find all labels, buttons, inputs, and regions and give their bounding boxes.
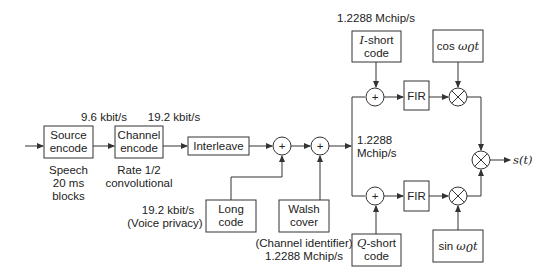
channel-encode-label-2: encode (120, 142, 158, 154)
adder-symbol: + (279, 140, 286, 152)
source-note-1: Speech (49, 164, 88, 176)
q-short-code-block: Q-short code (352, 234, 401, 266)
combiner (472, 151, 490, 169)
source-encode-label-1: Source (50, 129, 86, 141)
source-note-2: 20 ms (53, 177, 85, 189)
adder-walsh: + (311, 137, 329, 155)
top-rate-label: 1.2288 Mchip/s (337, 12, 415, 24)
arrow-long-code-to-adder (231, 156, 282, 200)
mid-rate-2: Mchip/s (357, 147, 397, 159)
channel-note-2: convolutional (105, 177, 172, 189)
cos-carrier-block: cos ω0t (433, 30, 483, 62)
walsh-note-2: 1.2288 Mchip/s (265, 250, 343, 262)
source-encode-block: Source encode (44, 126, 93, 158)
long-code-block: Long code (206, 200, 256, 232)
multiplier-lower (449, 187, 467, 205)
mid-rate-1: 1.2288 (357, 134, 392, 146)
multiplier-upper (449, 88, 467, 106)
output-label: s(t) (513, 153, 533, 167)
adder-q-channel: + (366, 187, 384, 205)
adder-long-code: + (273, 137, 291, 155)
fir-lower-label: FIR (407, 190, 426, 202)
walsh-label-2: cover (290, 216, 318, 228)
cdma-transmitter-diagram: Source encode Speech 20 ms blocks 9.6 kb… (0, 0, 548, 276)
interleave-label: Interleave (193, 140, 244, 152)
i-short-label-1: I-short (359, 33, 395, 47)
rate-channel-label: 19.2 kbit/s (148, 111, 201, 123)
fir-upper-label: FIR (407, 90, 426, 102)
channel-encode-label-1: Channel (118, 129, 161, 141)
sin-carrier-block: sin ω0t (433, 230, 483, 262)
source-encode-label-2: encode (50, 142, 88, 154)
arrow-mult-lower-to-sum (467, 170, 481, 196)
q-short-label-2: code (364, 250, 389, 262)
long-code-rate-2: (Voice privacy) (127, 217, 203, 229)
fir-upper-block: FIR (404, 81, 429, 110)
adder-symbol: + (317, 140, 324, 152)
adder-symbol: + (372, 91, 379, 103)
channel-note-1: Rate 1/2 (117, 164, 160, 176)
fir-lower-block: FIR (404, 181, 429, 211)
channel-encode-block: Channel encode (115, 126, 163, 158)
walsh-cover-block: Walsh cover (279, 200, 329, 232)
adder-symbol: + (372, 190, 379, 202)
rate-source-label: 9.6 kbit/s (81, 111, 127, 123)
i-short-label-2: code (364, 47, 389, 59)
walsh-note-1: (Channel identifier) (255, 237, 352, 249)
adder-i-channel: + (366, 88, 384, 106)
i-short-code-block: I-short code (352, 31, 401, 62)
long-code-label-1: Long (218, 203, 244, 215)
long-code-label-2: code (219, 216, 244, 228)
arrow-mult-upper-to-sum (467, 97, 481, 150)
long-code-rate-1: 19.2 kbit/s (142, 204, 195, 216)
interleave-block: Interleave (188, 137, 249, 155)
walsh-label-1: Walsh (288, 203, 320, 215)
source-note-3: blocks (52, 190, 85, 202)
q-short-label-1: Q-short (357, 236, 397, 250)
